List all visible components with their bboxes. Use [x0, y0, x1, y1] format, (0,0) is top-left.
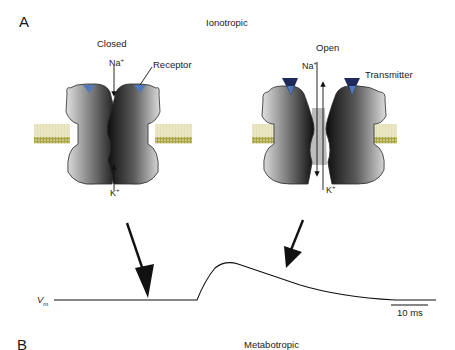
panel-label-b: B [17, 336, 27, 350]
panel-title-ionotropic: Ionotropic [206, 17, 248, 28]
ionotropic-diagram [0, 0, 455, 350]
right-subunit-closed [107, 84, 160, 184]
vm-axis-label: Vm [37, 294, 48, 307]
receptor-callout-line [140, 67, 152, 85]
open-channel [252, 62, 397, 190]
receptor-label: Receptor [153, 59, 192, 70]
closed-channel [34, 66, 192, 190]
panel-title-metabotropic: Metabotropic [244, 339, 299, 350]
membrane-right-closed [155, 124, 192, 144]
ion-label-na-open: Na+ [302, 60, 317, 71]
state-label-open: Open [316, 42, 339, 53]
vm-trace [54, 263, 436, 300]
ion-label-k-open: K+ [326, 184, 336, 195]
arrowhead-open [284, 246, 302, 268]
membrane-left-closed [34, 124, 70, 144]
panel-label-a: A [19, 13, 29, 30]
state-label-closed: Closed [97, 38, 127, 49]
pointer-arrows [127, 220, 303, 298]
arrowhead-closed [135, 264, 154, 298]
ion-label-na-closed: Na+ [109, 57, 124, 68]
transmitter-label: Transmitter [365, 69, 413, 80]
scale-bar-label: 10 ms [397, 307, 423, 318]
ion-label-k-closed: K+ [110, 187, 120, 198]
